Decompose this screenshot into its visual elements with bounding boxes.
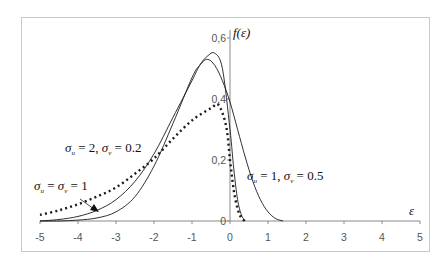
y-tick-label: 0 <box>220 215 226 227</box>
x-tick-label: -1 <box>187 231 196 243</box>
annotation-sigma-u1-v05: σu = 1, σv = 0.5 <box>247 168 323 185</box>
axes: -5-4-3-2-101234500,20,40,6 <box>35 30 423 243</box>
x-tick-label: -5 <box>35 231 44 243</box>
arrow-head-icon <box>90 204 99 212</box>
y-tick-label: 0,2 <box>211 154 226 166</box>
y-axis-title: f(ε) <box>233 25 250 40</box>
x-tick-label: 5 <box>417 231 423 243</box>
y-tick-label: 0,6 <box>211 32 226 44</box>
x-tick-label: 1 <box>265 231 271 243</box>
annotations: f(ε) ε σu = 2, σv = 0.2 σu = σv = 1 σu =… <box>34 25 415 218</box>
x-tick-label: 0 <box>227 231 233 243</box>
line-chart: -5-4-3-2-101234500,20,40,6 f(ε) ε σu = 2… <box>0 0 448 266</box>
x-tick-label: 2 <box>303 231 309 243</box>
y-tick-label: 0,4 <box>211 93 226 105</box>
x-tick-label: -2 <box>149 231 158 243</box>
annotation-sigma-u2-v02: σu = 2, σv = 0.2 <box>65 140 141 157</box>
x-tick-label: 3 <box>341 231 347 243</box>
series-line-1 <box>40 53 245 221</box>
series-layer <box>40 53 283 221</box>
x-tick-label: 4 <box>379 231 385 243</box>
x-tick-label: -4 <box>73 231 82 243</box>
x-tick-label: -3 <box>111 231 120 243</box>
annotation-sigma-u1-v1: σu = σv = 1 <box>34 178 88 195</box>
x-axis-title: ε <box>409 203 415 218</box>
